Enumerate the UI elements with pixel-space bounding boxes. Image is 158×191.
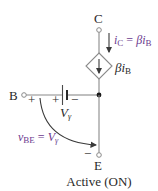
collector-label: C bbox=[94, 11, 103, 26]
diagram-caption: Active (ON) bbox=[66, 174, 131, 189]
collector-current-label: iC = βiB bbox=[114, 33, 151, 48]
emitter-label: E bbox=[94, 158, 102, 173]
vbe-minus: − bbox=[84, 146, 91, 161]
base-label: B bbox=[9, 88, 18, 103]
emitter-terminal bbox=[97, 153, 102, 158]
collector-terminal bbox=[97, 28, 102, 33]
battery-minus: − bbox=[71, 92, 78, 107]
bjt-active-model-diagram: C iC = βiB βiB B + − Vγ E + − vBE = Vγ A… bbox=[0, 0, 158, 191]
vbe-plus: + bbox=[28, 92, 35, 107]
base-terminal bbox=[22, 93, 27, 98]
vbe-label: vBE = Vγ bbox=[18, 130, 59, 145]
battery-plus: + bbox=[52, 92, 59, 107]
dependent-source-label: βiB bbox=[114, 60, 131, 76]
battery-label: Vγ bbox=[60, 105, 72, 121]
